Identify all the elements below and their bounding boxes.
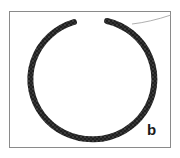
panel-label: b [147,122,156,137]
open-ring [30,21,154,139]
wire-line [132,15,171,24]
